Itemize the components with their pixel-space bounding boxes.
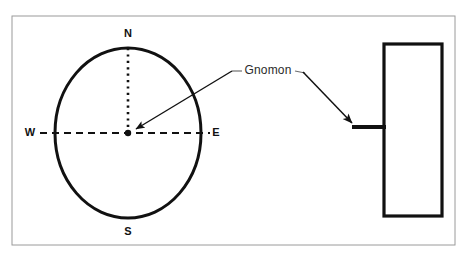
diagram-canvas: N S W E Gnomon xyxy=(0,0,468,266)
gnomon-label: Gnomon xyxy=(244,63,291,77)
cardinal-label-east: E xyxy=(212,126,219,138)
cardinal-label-south: S xyxy=(124,225,131,237)
gnomon-diagram-svg: N S W E Gnomon xyxy=(0,0,468,266)
gnomon-leader-right-arrow xyxy=(303,72,352,123)
dial-center-point xyxy=(125,130,131,136)
cardinal-label-north: N xyxy=(124,27,132,39)
gnomon-plate-rectangle xyxy=(384,44,442,216)
cardinal-label-west: W xyxy=(25,126,36,138)
